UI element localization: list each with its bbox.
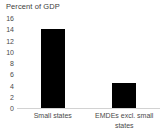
plot-area: [17, 18, 160, 108]
bar: [41, 29, 65, 108]
y-axis-tick-label: 8: [0, 60, 14, 67]
bar-chart: Percent of GDP 0246810121416 Small state…: [0, 0, 167, 135]
x-axis-tick-label: Small states: [17, 111, 89, 121]
y-axis-tick-label: 14: [0, 26, 14, 33]
y-axis-tick-label: 12: [0, 37, 14, 44]
x-axis-labels: Small statesEMDEs excl. smallstates: [17, 111, 160, 135]
chart-title: Percent of GDP: [6, 2, 60, 11]
y-axis-tick-label: 16: [0, 15, 14, 22]
y-axis-tick-label: 10: [0, 48, 14, 55]
bar: [112, 83, 136, 108]
y-axis-tick-label: 2: [0, 93, 14, 100]
x-axis-tick-label: EMDEs excl. smallstates: [89, 111, 161, 130]
y-axis-tick-label: 0: [0, 105, 14, 112]
y-axis: 0246810121416: [0, 18, 14, 108]
x-axis-line: [17, 108, 160, 109]
y-axis-tick-label: 6: [0, 71, 14, 78]
y-axis-tick-label: 4: [0, 82, 14, 89]
